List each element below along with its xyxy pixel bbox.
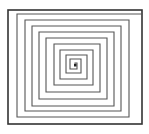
- outer-frame: [8, 10, 142, 124]
- center-dot: [74, 64, 77, 67]
- spiral-path: [17, 14, 142, 117]
- square-spiral-diagram: [0, 0, 149, 134]
